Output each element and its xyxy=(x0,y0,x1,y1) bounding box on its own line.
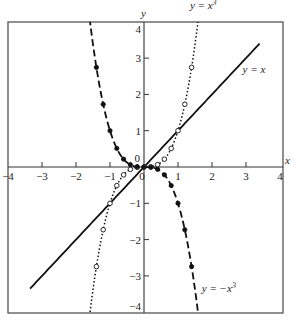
filled-circle-marker xyxy=(162,173,166,177)
x-tick-label: 4 xyxy=(277,170,283,182)
filled-circle-marker xyxy=(142,165,146,169)
x-tick-label: −4 xyxy=(2,170,14,182)
y-tick-label: 2 xyxy=(136,88,142,100)
filled-circle-marker xyxy=(122,157,126,161)
filled-circle-marker xyxy=(115,146,119,150)
filled-circle-marker xyxy=(108,129,112,133)
x-tick-label: 2 xyxy=(209,170,215,182)
x-axis-label: x xyxy=(284,154,290,166)
x-tick-label: 1 xyxy=(175,170,181,182)
y-tick-label: −3 xyxy=(129,270,141,282)
x-tick-label: −2 xyxy=(70,170,82,182)
x-tick-label: −3 xyxy=(36,170,48,182)
filled-circle-marker xyxy=(149,165,153,169)
open-circle-marker xyxy=(162,157,167,162)
open-circle-marker xyxy=(176,128,181,133)
filled-circle-marker xyxy=(183,228,187,232)
y-tick-label: 3 xyxy=(136,52,142,64)
open-circle-marker xyxy=(128,167,133,172)
curve-label: y = x3 xyxy=(189,0,217,11)
open-circle-marker xyxy=(108,201,113,206)
curve-label: y = −x3 xyxy=(201,281,236,294)
y-tick-label: 0 xyxy=(135,152,141,164)
y-tick-label: −2 xyxy=(129,234,141,246)
filled-circle-marker xyxy=(190,265,194,269)
filled-circle-marker xyxy=(135,165,139,169)
filled-circle-marker xyxy=(94,65,98,69)
cubic-function-chart: −4−3−2−101234−4−3−2−101234 y x y = xy = … xyxy=(0,0,294,324)
x-tick-label: −1 xyxy=(104,170,116,182)
open-circle-marker xyxy=(169,146,174,151)
curve-labels: y = xy = x3y = −x3 xyxy=(189,0,266,294)
filled-circle-marker xyxy=(156,167,160,171)
y-tick-label: −4 xyxy=(129,300,141,312)
open-circle-marker xyxy=(189,65,194,70)
open-circle-marker xyxy=(121,173,126,178)
y-axis-label: y xyxy=(140,7,146,19)
y-tick-label: 4 xyxy=(136,23,142,35)
filled-circle-marker xyxy=(128,163,132,167)
open-circle-marker xyxy=(155,162,160,167)
filled-circle-marker xyxy=(176,201,180,205)
x-tick-label: 3 xyxy=(243,170,249,182)
y-tick-label: −1 xyxy=(129,197,141,209)
open-circle-marker xyxy=(115,183,120,188)
open-circle-marker xyxy=(94,264,99,269)
filled-circle-marker xyxy=(169,183,173,187)
open-circle-marker xyxy=(101,227,106,232)
y-tick-label: 1 xyxy=(136,125,142,137)
open-circle-marker xyxy=(183,102,188,107)
filled-circle-marker xyxy=(101,102,105,106)
curve-label: y = x xyxy=(242,63,266,75)
